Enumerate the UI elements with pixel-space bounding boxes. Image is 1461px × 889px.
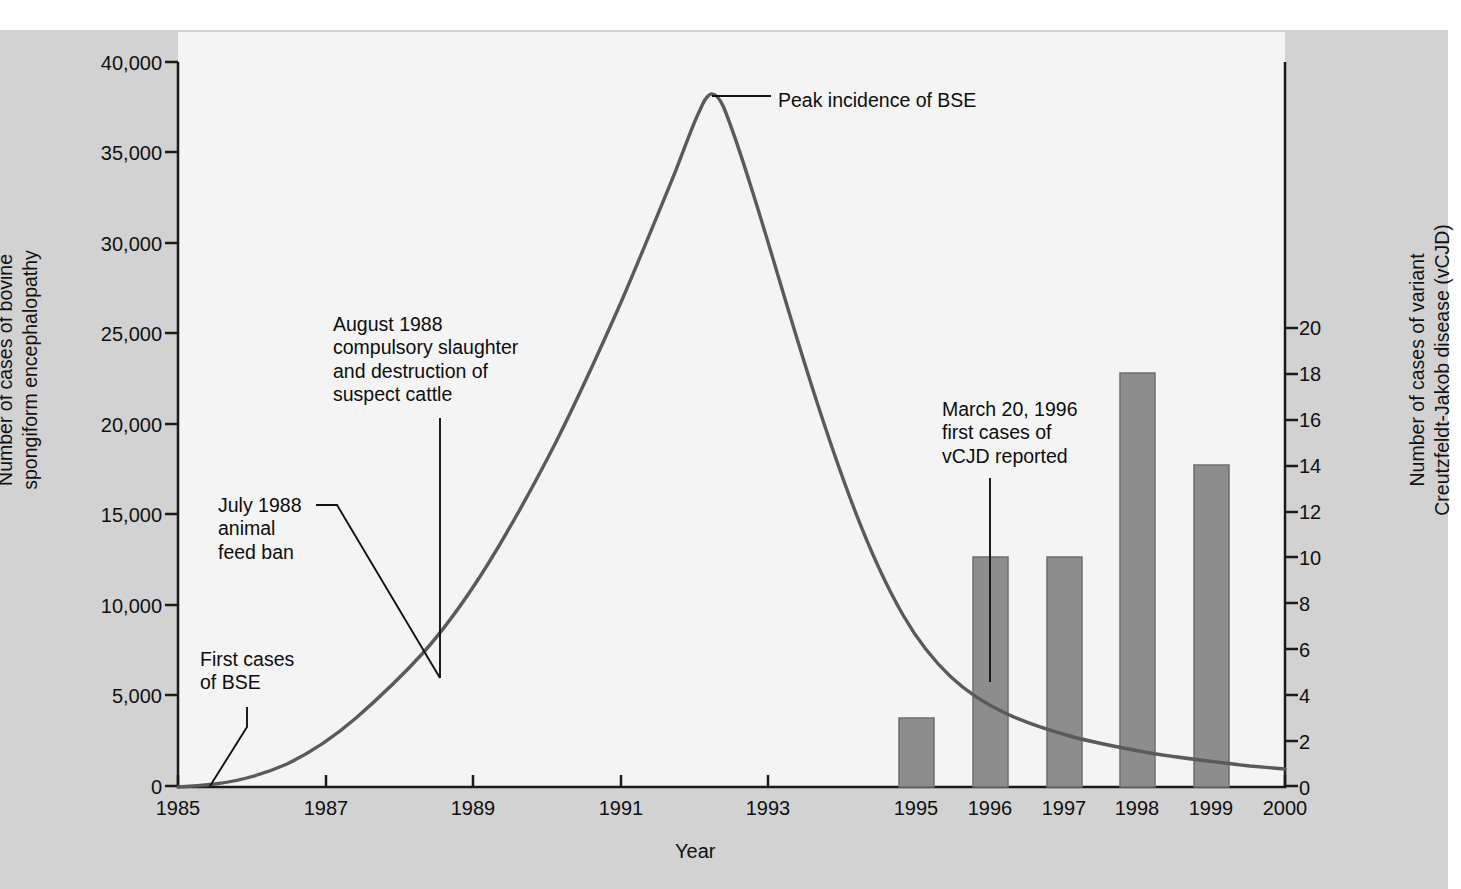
x-tick-1987: 1987	[281, 797, 371, 820]
y-right-tick-2: 2	[1299, 731, 1359, 754]
x-tick-1991: 1991	[576, 797, 666, 820]
y-left-tick-40000: 40,000	[32, 52, 162, 75]
x-tick-1985: 1985	[133, 797, 223, 820]
y-left-axis-label-line2: spongiform encephalopathy	[18, 90, 43, 650]
chart-page: 40,000 35,000 30,000 25,000 20,000 15,00…	[0, 0, 1461, 889]
y-right-tick-4: 4	[1299, 685, 1359, 708]
x-axis-label: Year	[675, 840, 715, 863]
annotation-feed-ban: July 1988 animal feed ban	[218, 494, 301, 564]
x-tick-1989: 1989	[428, 797, 518, 820]
y-left-tick-0: 0	[32, 776, 162, 799]
y-left-tick-10000: 10,000	[32, 595, 162, 618]
y-left-tick-5000: 5,000	[32, 685, 162, 708]
annotation-peak: Peak incidence of BSE	[778, 89, 976, 112]
x-tick-1993: 1993	[723, 797, 813, 820]
x-tick-2000: 2000	[1240, 797, 1330, 820]
y-left-tick-35000: 35,000	[32, 142, 162, 165]
annotation-vcjd: March 20, 1996 first cases of vCJD repor…	[942, 398, 1078, 468]
annotation-slaughter: August 1988 compulsory slaughter and des…	[333, 313, 518, 407]
annotation-first-cases: First cases of BSE	[200, 648, 294, 695]
y-right-tick-16: 16	[1299, 409, 1359, 432]
y-left-axis-label-line1: Number of cases of bovine	[0, 90, 18, 650]
y-right-tick-20: 20	[1299, 317, 1359, 340]
y-right-tick-6: 6	[1299, 639, 1359, 662]
y-left-tick-15000: 15,000	[32, 504, 162, 527]
y-right-tick-18: 18	[1299, 363, 1359, 386]
y-left-tick-30000: 30,000	[32, 233, 162, 256]
y-left-axis-label: Number of cases of bovine spongiform enc…	[0, 90, 43, 650]
y-left-tick-25000: 25,000	[32, 323, 162, 346]
y-right-tick-12: 12	[1299, 501, 1359, 524]
y-right-tick-10: 10	[1299, 547, 1359, 570]
y-right-axis-label-line2: Creutzfeldt-Jakob disease (vCJD)	[1430, 90, 1455, 650]
y-right-tick-14: 14	[1299, 455, 1359, 478]
y-right-tick-8: 8	[1299, 593, 1359, 616]
plot-area	[178, 32, 1285, 787]
y-left-tick-20000: 20,000	[32, 414, 162, 437]
y-right-axis-label-line1: Number of cases of variant	[1405, 90, 1430, 650]
y-right-axis-label: Number of cases of variant Creutzfeldt-J…	[1405, 90, 1455, 650]
